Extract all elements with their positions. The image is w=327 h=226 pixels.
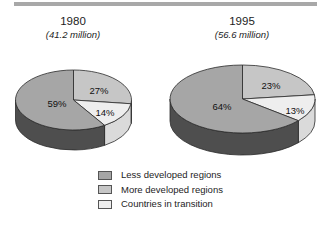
- slice-label-1995-more: 23%: [261, 80, 280, 91]
- legend-swatch-transition: [98, 200, 112, 209]
- legend-row-more: More developed regions: [98, 185, 223, 195]
- legend-swatch-more: [98, 185, 112, 194]
- legend-label-more: More developed regions: [121, 185, 223, 195]
- figure-root: 1980 (41.2 million) 1995 (56.6 million) …: [0, 0, 327, 226]
- legend: Less developed regions More developed re…: [98, 170, 223, 214]
- slice-label-1980-more: 27%: [89, 85, 108, 96]
- legend-row-less: Less developed regions: [98, 170, 223, 180]
- slice-label-1980-less: 59%: [47, 98, 66, 109]
- legend-row-transition: Countries in transition: [98, 199, 223, 209]
- slice-label-1980-transition: 14%: [95, 107, 114, 118]
- slice-label-1995-less: 64%: [212, 101, 231, 112]
- legend-swatch-less: [98, 171, 112, 180]
- slice-label-1995-transition: 13%: [285, 105, 304, 116]
- legend-label-transition: Countries in transition: [121, 199, 213, 209]
- legend-label-less: Less developed regions: [121, 170, 221, 180]
